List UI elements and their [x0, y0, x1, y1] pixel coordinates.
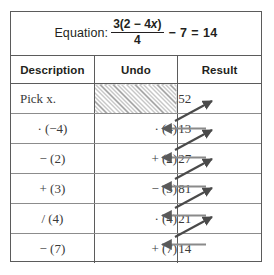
- table-row: Pick x. 52: [11, 84, 261, 114]
- cell-undo: − (3): [94, 174, 177, 204]
- table-row: − (7) + (7) 14: [11, 234, 261, 264]
- fraction-denominator: 4: [111, 33, 163, 48]
- table-row: + (3) − (3) 81: [11, 174, 261, 204]
- column-header-description: Description: [11, 56, 94, 84]
- cell-result: 13: [178, 114, 261, 144]
- table-header-row: Description Undo Result: [11, 56, 261, 84]
- undo-table: Equation:3(2 − 4x)4− 7 = 14 Description …: [11, 12, 261, 263]
- cell-undo: · (4): [94, 204, 177, 234]
- cell-result: 81: [178, 174, 261, 204]
- undo-table-container: Equation:3(2 − 4x)4− 7 = 14 Description …: [10, 11, 262, 262]
- cell-description: Pick x.: [11, 84, 94, 114]
- numerator-variable: x: [151, 17, 158, 31]
- table-row: − (2) + (2) 27: [11, 144, 261, 174]
- cell-undo: · (4): [94, 114, 177, 144]
- equation-expression: Equation:3(2 − 4x)4− 7 = 14: [54, 18, 217, 48]
- cell-result: 14: [178, 234, 261, 264]
- cell-description: / (4): [11, 204, 94, 234]
- numerator-suffix: ): [158, 17, 162, 31]
- cell-result: 21: [178, 204, 261, 234]
- equation-cell: Equation:3(2 − 4x)4− 7 = 14: [11, 12, 261, 56]
- cell-result: 27: [178, 144, 261, 174]
- cell-undo: + (7): [94, 234, 177, 264]
- equation-row: Equation:3(2 − 4x)4− 7 = 14: [11, 12, 261, 56]
- table-row: · (−4) · (4) 13: [11, 114, 261, 144]
- column-header-result: Result: [178, 56, 261, 84]
- equation-label: Equation:: [54, 26, 108, 40]
- cell-undo: + (2): [94, 144, 177, 174]
- cell-description: − (2): [11, 144, 94, 174]
- equation-tail: − 7 = 14: [169, 26, 218, 40]
- equation-fraction: 3(2 − 4x)4: [111, 18, 163, 48]
- numerator-prefix: 3(2 − 4: [113, 17, 151, 31]
- worksheet-figure: Equation:3(2 − 4x)4− 7 = 14 Description …: [0, 0, 274, 275]
- fraction-numerator: 3(2 − 4x): [111, 18, 163, 33]
- cell-description: − (7): [11, 234, 94, 264]
- cell-description: · (−4): [11, 114, 94, 144]
- table-row: / (4) · (4) 21: [11, 204, 261, 234]
- column-header-undo: Undo: [94, 56, 177, 84]
- cell-description: + (3): [11, 174, 94, 204]
- cell-undo-shaded: [94, 84, 177, 114]
- cell-result: 52: [178, 84, 261, 114]
